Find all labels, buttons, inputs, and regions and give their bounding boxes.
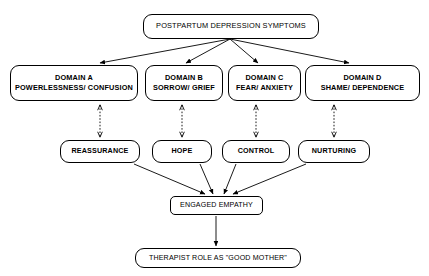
edges-root-to-domains — [100, 39, 349, 63]
node-label: NURTURING — [312, 147, 356, 155]
edge-root-to-domain-a — [100, 39, 230, 63]
node-domain-a[interactable]: DOMAIN A POWERLESSNESS/ CONFUSION — [10, 65, 138, 101]
edges-domain-intervention-dotted — [100, 105, 334, 137]
node-therapist-role[interactable]: THERAPIST ROLE AS "GOOD MOTHER" — [135, 248, 301, 268]
node-label: THERAPIST ROLE AS "GOOD MOTHER" — [149, 254, 287, 262]
node-domain-d[interactable]: DOMAIN D SHAME/ DEPENDENCE — [305, 65, 420, 101]
node-engaged-empathy[interactable]: ENGAGED EMPATHY — [170, 196, 263, 215]
node-postpartum-depression-symptoms[interactable]: POSTPARTUM DEPRESSION SYMPTOMS — [143, 14, 319, 39]
node-domain-c[interactable]: DOMAIN C FEAR/ ANXIETY — [228, 65, 301, 101]
domain-d-title: DOMAIN D — [343, 74, 381, 83]
edge-hope-to-empathy — [200, 164, 213, 194]
diagram-canvas: POSTPARTUM DEPRESSION SYMPTOMS DOMAIN A … — [0, 0, 429, 276]
connector-layer — [0, 0, 429, 276]
node-hope[interactable]: HOPE — [152, 140, 212, 163]
edge-root-to-domain-c — [230, 39, 258, 63]
edge-root-to-domain-d — [230, 39, 349, 63]
domain-b-title: DOMAIN B — [165, 74, 203, 83]
node-label: HOPE — [172, 147, 193, 155]
domain-c-title: DOMAIN C — [245, 74, 283, 83]
domain-b-subtitle: SORROW/ GRIEF — [153, 84, 215, 93]
node-label: CONTROL — [238, 147, 275, 155]
node-domain-b[interactable]: DOMAIN B SORROW/ GRIEF — [145, 65, 223, 101]
edge-reassurance-to-empathy — [134, 164, 205, 194]
node-label: ENGAGED EMPATHY — [180, 201, 253, 209]
node-reassurance[interactable]: REASSURANCE — [60, 140, 140, 163]
domain-c-subtitle: FEAR/ ANXIETY — [236, 84, 293, 93]
node-label: POSTPARTUM DEPRESSION SYMPTOMS — [156, 22, 306, 31]
edge-nurturing-to-empathy — [233, 164, 306, 194]
node-nurturing[interactable]: NURTURING — [298, 140, 370, 163]
edge-root-to-domain-b — [186, 39, 230, 63]
node-label: REASSURANCE — [71, 147, 128, 155]
edge-control-to-empathy — [224, 164, 236, 194]
domain-a-title: DOMAIN A — [55, 74, 93, 83]
node-control[interactable]: CONTROL — [222, 140, 290, 163]
domain-d-subtitle: SHAME/ DEPENDENCE — [321, 84, 405, 93]
domain-a-subtitle: POWERLESSNESS/ CONFUSION — [15, 84, 133, 93]
edges-interventions-to-empathy — [134, 164, 306, 194]
